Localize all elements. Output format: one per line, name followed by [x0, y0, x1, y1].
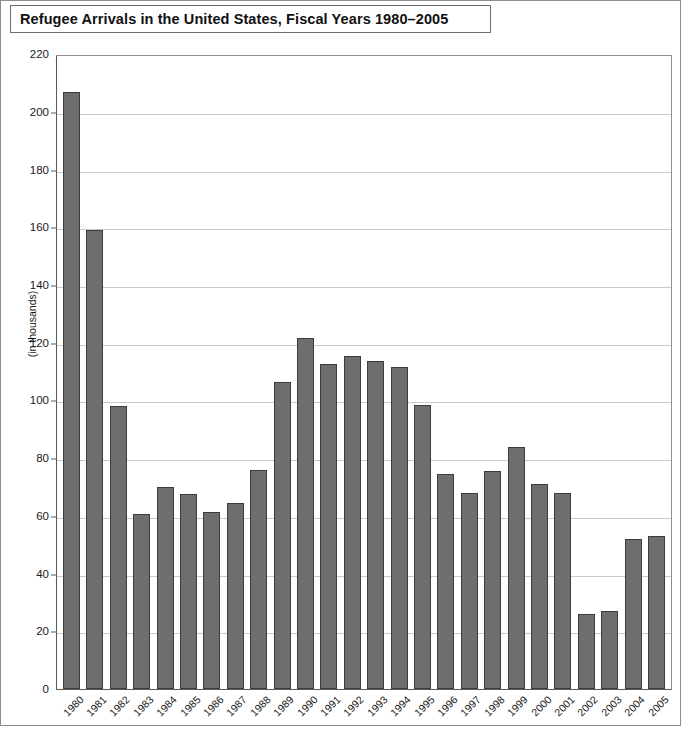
- y-tick-label-60: 60: [5, 511, 49, 523]
- gridline-180: [57, 172, 671, 173]
- y-tick-label-0: 0: [5, 684, 49, 696]
- bar-2001: [554, 493, 571, 689]
- bar-1992: [344, 356, 361, 689]
- bar-1997: [461, 493, 478, 689]
- y-tick-label-160: 160: [5, 222, 49, 234]
- bar-1986: [203, 512, 220, 690]
- y-tick-label-20: 20: [5, 627, 49, 639]
- gridline-140: [57, 287, 671, 288]
- bar-1994: [391, 367, 408, 689]
- y-tick-label-40: 40: [5, 569, 49, 581]
- bar-1991: [320, 364, 337, 689]
- bar-1999: [508, 447, 525, 690]
- gridline-100: [57, 402, 671, 403]
- plot-area: [56, 55, 672, 690]
- chart-figure: Refugee Arrivals in the United States, F…: [0, 0, 684, 729]
- bar-1985: [180, 494, 197, 689]
- bar-2000: [531, 484, 548, 689]
- bar-1998: [484, 471, 501, 689]
- bar-1982: [110, 406, 127, 689]
- bar-1980: [63, 92, 80, 690]
- bar-1983: [133, 514, 150, 689]
- y-tick-label-80: 80: [5, 453, 49, 465]
- page-title: Refugee Arrivals in the United States, F…: [11, 11, 448, 27]
- gridline-120: [57, 345, 671, 346]
- y-tick-label-140: 140: [5, 280, 49, 292]
- bar-1990: [297, 338, 314, 689]
- y-tick-label-100: 100: [5, 396, 49, 408]
- y-tick-label-200: 200: [5, 107, 49, 119]
- bar-2004: [625, 539, 642, 689]
- bar-2005: [648, 536, 665, 689]
- y-tick-label-220: 220: [5, 49, 49, 61]
- bar-1995: [414, 405, 431, 689]
- bar-1993: [367, 361, 384, 689]
- chart-title-box: Refugee Arrivals in the United States, F…: [10, 5, 491, 33]
- bar-1989: [274, 382, 291, 689]
- bar-1987: [227, 503, 244, 689]
- gridline-160: [57, 229, 671, 230]
- bar-2002: [578, 614, 595, 689]
- gridline-80: [57, 460, 671, 461]
- bar-1984: [157, 487, 174, 689]
- y-tick-label-180: 180: [5, 165, 49, 177]
- bar-1981: [86, 230, 103, 689]
- bar-2003: [601, 611, 618, 689]
- bar-1996: [437, 474, 454, 689]
- y-tick-label-120: 120: [5, 338, 49, 350]
- bar-1988: [250, 470, 267, 689]
- gridline-200: [57, 114, 671, 115]
